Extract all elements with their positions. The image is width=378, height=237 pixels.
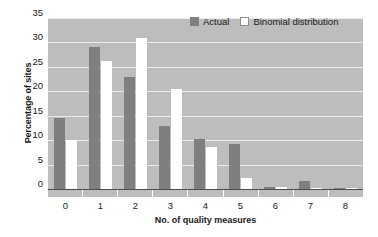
binomial-swatch [240,17,249,26]
bar-binomial-distribution-4 [206,147,217,190]
y-axis-tick-label: 15 [14,106,43,116]
bar-group [258,18,293,189]
x-axis-tick-label: 6 [258,199,293,213]
bar-group [293,18,328,189]
x-axis-tick-mark [224,190,259,197]
bar-actual-1 [89,47,100,189]
bar-group [118,18,153,189]
bar-chart-figure: Percentage of sites 05101520253035 01234… [0,0,378,237]
y-axis-tick-label: 25 [14,57,43,67]
x-axis-tick-mark [188,190,223,197]
plot-area [48,18,363,189]
bar-binomial-distribution-1 [101,61,112,189]
bar-actual-3 [159,126,170,190]
x-axis-tick-mark [294,190,329,197]
x-axis-tick-mark [83,190,118,197]
x-axis-tick-mark [153,190,188,197]
y-axis-tick-label: 30 [14,33,43,43]
bar-group [48,18,83,189]
x-axis-tick-mark [329,190,363,197]
y-axis-tick-label: 20 [14,82,43,92]
legend-label: Binomial distribution [253,16,338,27]
x-axis-tick-mark [48,190,83,197]
bar-binomial-distribution-5 [241,178,252,189]
x-axis-tick-label: 0 [48,199,83,213]
bar-binomial-distribution-2 [136,38,147,189]
x-axis-tick-label: 5 [223,199,258,213]
legend-entry: Binomial distribution [240,16,338,27]
bar-actual-2 [124,77,135,189]
bar-actual-0 [54,118,65,189]
legend-label: Actual [203,16,229,27]
bar-binomial-distribution-0 [66,140,77,189]
x-axis-tick-label: 8 [328,199,363,213]
bar-group [153,18,188,189]
bar-group [83,18,118,189]
chart-legend: ActualBinomial distribution [190,14,344,28]
x-axis-tick-mark [118,190,153,197]
y-axis-tick-label: 10 [14,130,43,140]
bar-group [328,18,363,189]
x-axis-tick-label: 2 [118,199,153,213]
x-axis-tick-label: 1 [83,199,118,213]
bar-actual-5 [229,144,240,189]
bar-actual-4 [194,139,205,189]
x-axis-tick-label: 7 [293,199,328,213]
bar-group [223,18,258,189]
actual-swatch [190,17,199,26]
bar-group [188,18,223,189]
bar-binomial-distribution-3 [171,89,182,189]
y-axis-tick-label: 5 [14,155,43,165]
x-axis-tick-label: 4 [188,199,223,213]
x-axis-tick-label: 3 [153,199,188,213]
y-axis-tick-label: 35 [14,8,43,18]
x-axis-tick-band [48,190,363,197]
bar-actual-7 [299,181,310,189]
x-axis-tick-labels: 012345678 [48,199,363,213]
legend-entry: Actual [190,16,229,27]
x-axis-tick-mark [259,190,294,197]
bar-groups [48,18,363,189]
y-axis-tick-labels: 05101520253035 [14,13,43,189]
y-axis-tick-label: 0 [14,179,43,189]
x-axis-title: No. of quality measures [48,215,363,225]
